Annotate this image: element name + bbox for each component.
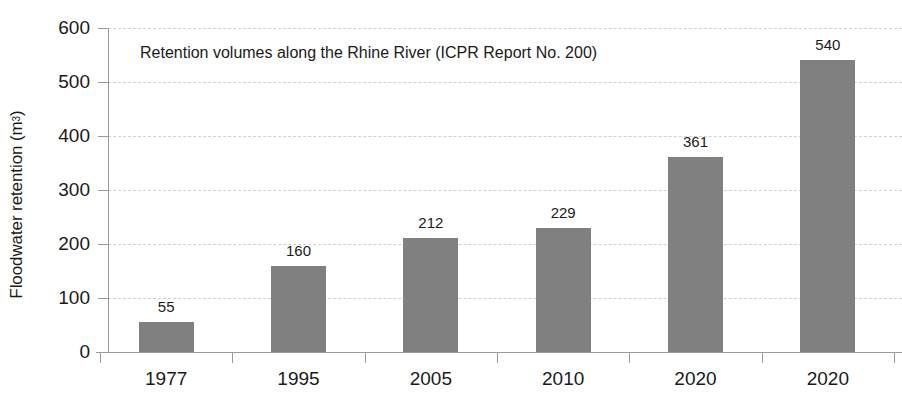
x-axis-tick-label: 2020 (764, 368, 892, 390)
y-axis-tick-label: 0 (30, 341, 90, 363)
plot-area (108, 28, 902, 352)
bar-chart: Floodwater retention (m3) 01002003004005… (0, 0, 902, 409)
bar-value-label: 160 (249, 242, 349, 259)
x-axis-tick (100, 352, 101, 363)
y-axis-tick-label: 400 (30, 125, 90, 147)
bar-value-label: 540 (778, 36, 878, 53)
y-axis-tick-label: 200 (30, 233, 90, 255)
y-axis-title: Floodwater retention (m3) (0, 0, 34, 409)
bar (800, 60, 855, 352)
gridline (108, 244, 902, 245)
gridline (108, 28, 902, 29)
x-axis-tick (365, 352, 366, 363)
x-axis-tick-label: 1995 (235, 368, 363, 390)
y-axis-tick-label: 100 (30, 287, 90, 309)
chart-title: Retention volumes along the Rhine River … (140, 44, 597, 62)
y-axis-tick (98, 244, 108, 245)
bar-value-label: 361 (646, 133, 746, 150)
x-axis-tick (894, 352, 895, 363)
bar (139, 322, 194, 352)
x-axis-tick-label: 2020 (632, 368, 760, 390)
y-axis-tick-label: 600 (30, 17, 90, 39)
x-axis-tick (497, 352, 498, 363)
x-axis-tick-label: 2010 (499, 368, 627, 390)
bar (668, 157, 723, 352)
y-axis-title-text: Floodwater retention (m (7, 121, 27, 298)
gridline (108, 82, 902, 83)
gridline (108, 136, 902, 137)
y-axis-tick (98, 28, 108, 29)
bar-value-label: 229 (513, 204, 613, 221)
y-axis-tick-label: 500 (30, 71, 90, 93)
y-axis-tick (98, 82, 108, 83)
y-axis-tick (98, 136, 108, 137)
bar (271, 266, 326, 352)
x-axis-tick (629, 352, 630, 363)
bar-value-label: 212 (381, 214, 481, 231)
gridline (108, 298, 902, 299)
x-axis-tick-label: 2005 (367, 368, 495, 390)
bar (403, 238, 458, 352)
x-axis-tick-label: 1977 (102, 368, 230, 390)
x-axis-line (96, 352, 902, 353)
y-axis-tick (98, 298, 108, 299)
y-axis-title-tail: ) (7, 110, 27, 116)
bar (536, 228, 591, 352)
bar-value-label: 55 (116, 298, 216, 315)
y-axis-line (108, 28, 109, 353)
x-axis-tick (762, 352, 763, 363)
y-axis-tick (98, 190, 108, 191)
x-axis-tick (232, 352, 233, 363)
y-axis-tick-label: 300 (30, 179, 90, 201)
gridline (108, 190, 902, 191)
